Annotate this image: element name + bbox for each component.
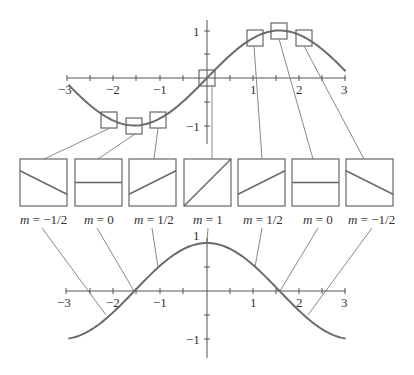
top-leader-lines xyxy=(44,39,364,159)
bottom-x-label-1: 1 xyxy=(250,295,257,310)
top-x-label-neg1: −1 xyxy=(153,82,167,97)
slope-label-5: m = 1/2 xyxy=(243,212,283,227)
top-x-label-neg3: −3 xyxy=(58,82,72,97)
top-x-label-2: 2 xyxy=(296,82,303,97)
slope-line-4 xyxy=(184,159,231,206)
top-graph: −3 −2 −1 1 2 3 1 −1 xyxy=(58,20,348,144)
slope-label-2: m = 0 xyxy=(84,212,114,227)
slope-label-1: m = −1/2 xyxy=(20,212,67,227)
bottom-x-label-neg1: −1 xyxy=(153,295,167,310)
top-x-label-neg2: −2 xyxy=(106,82,120,97)
slope-label-6: m = 0 xyxy=(303,212,333,227)
slope-line-5 xyxy=(238,171,285,195)
slope-label-7: m = −1/2 xyxy=(348,212,395,227)
slope-line-7 xyxy=(346,171,393,195)
slope-label-4: m = 1 xyxy=(193,212,223,227)
slope-line-1 xyxy=(20,171,67,195)
top-y-label-neg1: −1 xyxy=(186,119,200,134)
top-x-label-3: 3 xyxy=(341,82,348,97)
slope-line-3 xyxy=(129,171,176,195)
sine-derivative-diagram: −3 −2 −1 1 2 3 1 −1 m = −1/2 xyxy=(0,0,414,375)
bottom-y-label-neg1: −1 xyxy=(186,332,200,347)
top-x-label-1: 1 xyxy=(250,82,257,97)
slope-boxes xyxy=(20,159,393,206)
bottom-y-label-1: 1 xyxy=(193,228,200,243)
slope-labels: m = −1/2 m = 0 m = 1/2 m = 1 m = 1/2 m =… xyxy=(20,212,395,227)
bottom-x-label-3: 3 xyxy=(341,295,348,310)
slope-label-3: m = 1/2 xyxy=(134,212,174,227)
bottom-graph: −3 −2 −1 1 2 3 1 −1 xyxy=(57,228,348,358)
top-y-label-1: 1 xyxy=(193,24,200,39)
bottom-x-label-neg3: −3 xyxy=(57,295,71,310)
